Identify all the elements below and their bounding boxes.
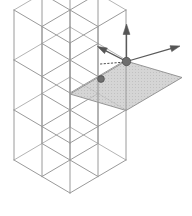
figure-background [0,0,192,216]
lattice-figure [0,0,192,216]
interior-node [98,76,105,83]
lattice-canvas [0,0,192,216]
origin-node [122,57,130,65]
